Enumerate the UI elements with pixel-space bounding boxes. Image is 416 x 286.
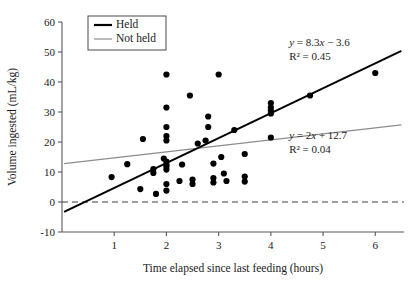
data-point [242, 151, 248, 157]
data-point [109, 174, 115, 180]
equation-annotation: R² = 0.04 [289, 143, 331, 155]
x-tick-label: 6 [373, 239, 379, 251]
data-point [163, 167, 169, 173]
data-point [179, 161, 185, 167]
data-point [210, 161, 216, 167]
equation-annotation: R² = 0.45 [289, 50, 331, 62]
data-point [163, 133, 169, 139]
y-tick-label: -10 [40, 226, 55, 238]
data-point [205, 113, 211, 119]
chart-canvas: -100102030405060123456y = 8.3x − 3.6R² =… [0, 0, 416, 286]
data-point [176, 178, 182, 184]
data-point [223, 178, 229, 184]
data-point [163, 124, 169, 130]
x-tick-label: 2 [164, 239, 170, 251]
data-point [202, 137, 208, 143]
data-point [307, 92, 313, 98]
data-point [210, 179, 216, 185]
data-point [163, 181, 169, 187]
x-axis-title: Time elapsed since last feeding (hours) [143, 262, 323, 275]
data-point [150, 166, 156, 172]
y-tick-label: 20 [44, 136, 56, 148]
data-point [218, 154, 224, 160]
data-point [216, 71, 222, 77]
data-point [268, 100, 274, 106]
y-tick-label: 60 [44, 16, 56, 28]
data-point [195, 140, 201, 146]
y-tick-label: 10 [44, 166, 56, 178]
x-tick-label: 3 [216, 239, 222, 251]
data-point [221, 170, 227, 176]
data-point [163, 104, 169, 110]
data-point [268, 134, 274, 140]
data-point [189, 181, 195, 187]
data-point [137, 186, 143, 192]
y-tick-label: 40 [44, 76, 56, 88]
y-axis-title: Volume ingested (mL/kg) [6, 68, 19, 186]
equation-annotation: y = 2x + 12.7 [288, 129, 347, 141]
x-tick-label: 5 [320, 239, 326, 251]
legend-label-held: Held [116, 18, 139, 30]
equation-annotation: y = 8.3x − 3.6 [288, 36, 350, 48]
y-tick-label: 50 [44, 46, 56, 58]
x-tick-label: 1 [111, 239, 117, 251]
data-point [242, 179, 248, 185]
data-point [372, 70, 378, 76]
data-point [153, 191, 159, 197]
y-tick-label: 30 [44, 106, 56, 118]
data-point [205, 124, 211, 130]
data-point [163, 71, 169, 77]
data-point [140, 136, 146, 142]
scatter-chart: -100102030405060123456y = 8.3x − 3.6R² =… [0, 0, 416, 286]
data-point [163, 188, 169, 194]
y-tick-label: 0 [50, 196, 56, 208]
data-point [187, 92, 193, 98]
data-point [231, 127, 237, 133]
legend-label-not-held: Not held [116, 32, 156, 44]
x-tick-label: 4 [268, 239, 274, 251]
data-point [124, 161, 130, 167]
